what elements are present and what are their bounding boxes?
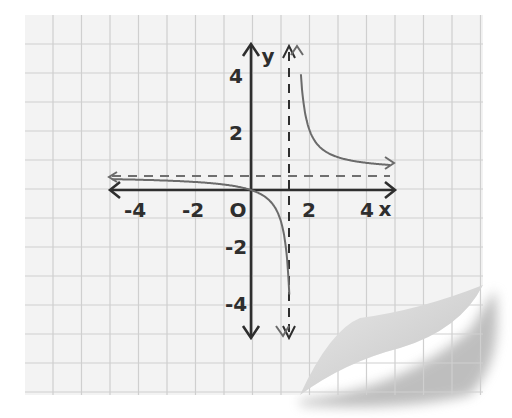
y-tick-label: 2 — [229, 121, 243, 145]
x-tick-label: -4 — [124, 198, 146, 222]
y-tick-label: -4 — [225, 292, 247, 316]
y-tick-label: -2 — [225, 235, 247, 259]
y-axis-label: y — [261, 44, 274, 68]
x-tick-label: O — [229, 198, 246, 222]
x-tick-label: -2 — [182, 198, 204, 222]
graph-paper-figure: -4-2O2442-2-4xy — [0, 0, 512, 418]
x-tick-label: 4 — [360, 198, 374, 222]
y-tick-label: 4 — [229, 64, 243, 88]
x-axis-label: x — [379, 197, 392, 221]
x-tick-label: 2 — [302, 198, 316, 222]
